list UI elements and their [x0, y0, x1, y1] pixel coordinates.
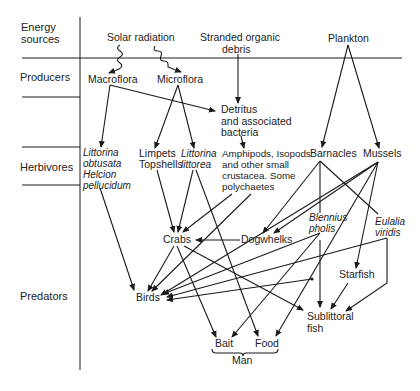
level-label-predators: Predators — [20, 290, 68, 302]
edge-solar-macroflora — [109, 45, 123, 73]
node-stranded-debris: Stranded organicdebris — [200, 31, 280, 55]
node-food: Food — [255, 337, 279, 349]
node-birds: Birds — [136, 291, 160, 303]
edge-extra-birds — [167, 279, 312, 300]
node-sublittoral-fish: Sublittoralfish — [307, 310, 354, 334]
node-amphipods: Amphipods, Isopodsand other smallcrustac… — [222, 148, 311, 192]
node-eulalia-viridis: Eulaliaviridis — [375, 216, 405, 238]
edge-littorina-littorea-crabs — [178, 170, 193, 232]
node-detritus: Detritusand associatedbacteria — [221, 103, 292, 138]
node-crabs: Crabs — [163, 233, 191, 245]
node-littorina-obtusata: LittorinaobtusataHelcionpellucidum — [82, 147, 131, 191]
food-web-diagram: Energysources Producers Herbivores Preda… — [0, 0, 420, 391]
edge-crabs-birds — [148, 246, 174, 291]
edge-microflora-littorina-littorea — [178, 85, 194, 148]
edge-starfish-sublittoral — [331, 283, 348, 309]
node-blennius-pholis: Blenniuspholis — [308, 212, 347, 234]
node-solar-radiation: Solar radiation — [107, 31, 175, 43]
edge-macroflora-detritus — [110, 85, 215, 111]
edge-microflora-limpets — [155, 85, 178, 148]
edge-limpets-crabs — [157, 170, 174, 232]
node-starfish: Starfish — [339, 268, 375, 280]
level-label-herbivores: Herbivores — [20, 161, 74, 173]
node-mussels: Mussels — [363, 147, 402, 159]
level-label-energy: Energysources — [21, 21, 60, 45]
node-microflora: Microflora — [157, 73, 203, 85]
edge-plankton-mussels — [348, 45, 379, 148]
node-bait: Bait — [215, 337, 233, 349]
node-limpets-topshells: LimpetsTopshells — [139, 147, 183, 170]
edge-crabs-sublittoral — [184, 246, 303, 310]
node-littorina-littorea: Littorinalittorea — [181, 148, 217, 170]
node-macroflora: Macroflora — [88, 73, 138, 85]
node-man: Man — [232, 354, 253, 366]
edge-solar-microflora — [154, 46, 181, 72]
node-dogwhelks: Dogwhelks — [241, 233, 292, 245]
edge-plankton-barnacles — [322, 45, 348, 147]
node-plankton: Plankton — [328, 32, 369, 44]
edge-littorina-obtusata-birds — [100, 188, 134, 290]
edge-macroflora-littorina-obtusata — [101, 85, 110, 147]
level-label-producers: Producers — [20, 71, 71, 83]
node-barnacles: Barnacles — [310, 147, 357, 159]
edge-mussels-starfish — [356, 162, 378, 268]
junction-dot — [310, 277, 313, 280]
